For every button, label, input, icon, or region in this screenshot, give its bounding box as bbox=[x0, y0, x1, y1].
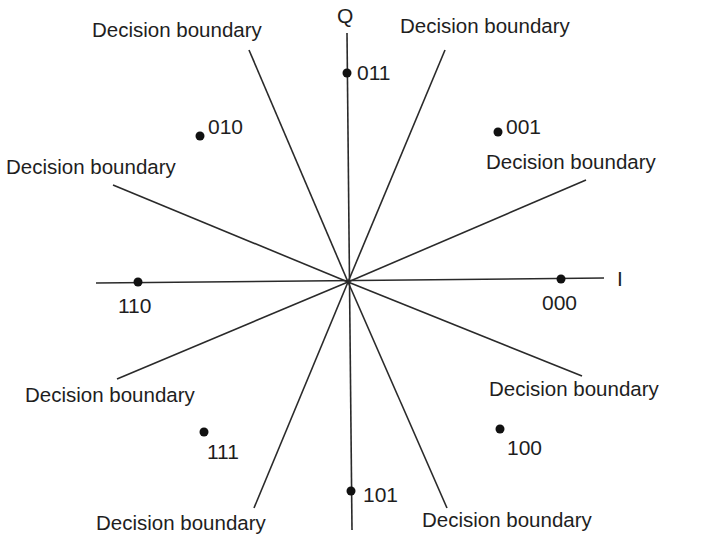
decision-boundary-label-3: Decision boundary bbox=[6, 157, 176, 178]
q-axis-label: Q bbox=[337, 5, 353, 26]
symbol-label-111: 111 bbox=[207, 441, 239, 462]
symbol-dot-101 bbox=[347, 487, 356, 496]
symbol-label-011: 011 bbox=[357, 62, 390, 83]
decision-boundary-label-7: Decision boundary bbox=[96, 513, 266, 534]
symbol-label-110: 110 bbox=[118, 295, 151, 316]
decision-boundary-label-5: Decision boundary bbox=[25, 385, 195, 406]
symbol-dot-001 bbox=[494, 128, 503, 137]
symbol-dot-100 bbox=[496, 425, 505, 434]
decision-boundary-label-1: Decision boundary bbox=[92, 20, 262, 41]
symbol-dot-111 bbox=[200, 428, 209, 437]
symbol-dot-110 bbox=[134, 278, 143, 287]
symbol-label-101: 101 bbox=[363, 484, 398, 505]
symbol-label-001: 001 bbox=[506, 116, 541, 137]
decision-boundary-label-6: Decision boundary bbox=[489, 379, 659, 400]
symbol-dot-010 bbox=[196, 132, 205, 141]
symbol-label-010: 010 bbox=[208, 116, 243, 137]
constellation-diagram bbox=[0, 0, 708, 545]
symbol-dot-011 bbox=[343, 69, 352, 78]
decision-boundary-label-2: Decision boundary bbox=[400, 16, 570, 37]
symbol-dot-000 bbox=[557, 275, 566, 284]
decision-boundary-label-8: Decision boundary bbox=[422, 510, 592, 531]
decision-boundary-label-4: Decision boundary bbox=[486, 152, 656, 173]
symbol-label-100: 100 bbox=[507, 437, 542, 458]
symbol-label-000: 000 bbox=[542, 292, 577, 313]
i-axis-label: I bbox=[617, 268, 623, 289]
